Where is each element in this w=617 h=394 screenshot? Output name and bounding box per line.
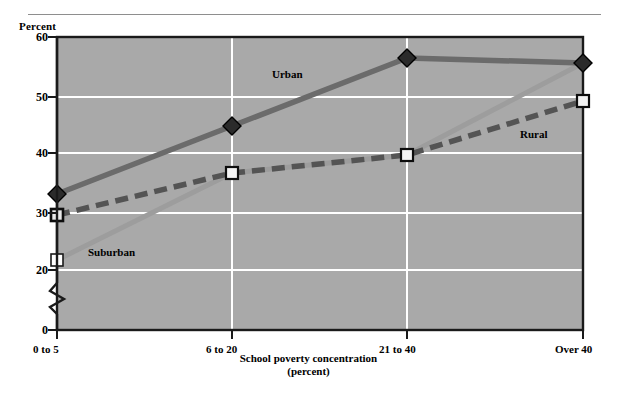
series-rural-marker-3 [577, 95, 589, 107]
chart-plot-svg [0, 0, 617, 394]
x-axis-title-sub: (percent) [0, 365, 617, 378]
series-rural-marker-1 [226, 167, 238, 179]
plot-background [57, 37, 583, 330]
series-label-suburban: Suburban [88, 246, 135, 258]
series-label-rural: Rural [520, 128, 548, 140]
x-axis-title: School poverty concentration (percent) [0, 352, 617, 378]
x-axis-ticks [57, 330, 583, 339]
series-label-urban: Urban [272, 68, 303, 80]
x-axis-title-main: School poverty concentration [240, 352, 377, 364]
chart-figure: Percent 60 50 40 30 20 0 [0, 0, 617, 394]
series-rural-marker-2 [401, 149, 413, 161]
